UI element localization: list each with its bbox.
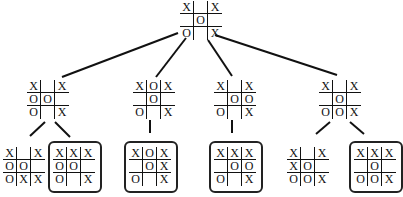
board-cell: O [27,106,41,119]
board-l3: XOXOXOX [129,147,171,186]
board-cell: X [208,1,222,14]
board-n2: XOXOOX [133,80,175,119]
board-cell: X [17,173,31,186]
board-cell: X [55,80,69,93]
board-cell [143,173,157,186]
board-l1: XXOOOXX [3,147,45,186]
board-cell: X [354,147,368,160]
board-cell: X [81,173,95,186]
board-cell: X [242,173,256,186]
board-cell [147,106,161,119]
board-l2: XXXOOOX [53,147,95,186]
board-cell: X [31,173,45,186]
board-cell: O [287,173,301,186]
board-cell: X [133,80,147,93]
board-cell: X [382,147,396,160]
board-cell: X [129,147,143,160]
board-root: XXOOX [180,1,222,40]
board-cell: O [129,173,143,186]
board-cell: O [143,160,157,173]
board-cell: X [31,147,45,160]
board-cell [228,106,242,119]
board-cell: O [319,106,333,119]
board-cell: O [214,106,228,119]
tree-edge [30,122,45,136]
board-cell: O [133,106,147,119]
board-cell: O [67,160,81,173]
board-cell: X [242,106,256,119]
board-l5: XXXOOOX [287,147,329,186]
board-cell: O [228,93,242,106]
board-cell: O [228,160,242,173]
tree-edge [208,40,232,76]
board-cell: X [214,80,228,93]
board-cell: X [382,173,396,186]
board-cell: O [354,173,368,186]
board-cell: O [147,93,161,106]
board-cell: X [347,80,361,93]
board-cell: O [194,14,208,27]
board-cell: X [161,80,175,93]
board-cell: X [81,147,95,160]
board-n4: XXOOOX [319,80,361,119]
board-n1: XXOOOX [27,80,69,119]
board-cell: X [214,147,228,160]
tree-edge [215,35,337,75]
board-cell: O [3,173,17,186]
board-cell: O [333,106,347,119]
board-cell [41,106,55,119]
board-cell: O [180,27,194,40]
board-cell: O [214,173,228,186]
board-cell: O [368,173,382,186]
board-l4: XXXOOOX [214,147,256,186]
board-cell: X [319,80,333,93]
board-cell: X [55,106,69,119]
board-cell: X [315,147,329,160]
board-cell: O [53,173,67,186]
tree-edge [55,122,70,137]
board-l6: XXXOOOX [354,147,396,186]
tree-edge [316,122,330,134]
tree-edge [156,38,186,77]
tree-edge [350,122,364,134]
board-cell: X [157,173,171,186]
game-tree-diagram: XXOOXXXOOOXXOXOOXXXOOOXXXOOOXXXOOOXXXXXO… [0,0,403,197]
board-cell: X [161,106,175,119]
board-cell [67,173,81,186]
board-cell: X [347,106,361,119]
board-cell [194,27,208,40]
board-cell: O [41,93,55,106]
board-cell: X [315,173,329,186]
board-cell: O [301,173,315,186]
board-n3: XXOOOX [214,80,256,119]
board-cell: X [180,1,194,14]
board-cell: X [208,27,222,40]
board-cell [228,173,242,186]
